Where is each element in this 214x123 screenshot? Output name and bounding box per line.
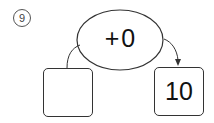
operation-label: +0 xyxy=(95,24,147,53)
output-value-box: 10 xyxy=(154,67,204,116)
arrow-line xyxy=(164,39,178,60)
problem-number: 9 xyxy=(13,9,31,27)
arrow-head-icon xyxy=(175,59,181,66)
input-answer-box[interactable] xyxy=(43,68,93,117)
